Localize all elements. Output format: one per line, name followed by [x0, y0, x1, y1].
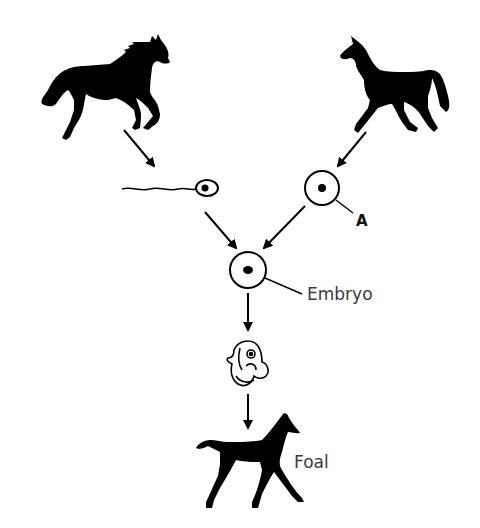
egg-label: A [356, 212, 368, 230]
reproduction-diagram [0, 0, 480, 528]
foal-silhouette-icon [196, 413, 304, 508]
arrow-stallion-to-sperm [124, 130, 154, 166]
embryo-cell-icon [230, 252, 302, 294]
foal-label: Foal [294, 452, 329, 472]
arrow-mare-to-egg [338, 132, 366, 166]
fetus-icon [227, 341, 268, 386]
mare-silhouette-icon [340, 36, 449, 133]
embryo-leader-line [265, 278, 302, 294]
arrow-egg-to-embryo [264, 206, 305, 248]
stallion-silhouette-icon [41, 34, 170, 140]
arrow-sperm-to-embryo [205, 212, 236, 248]
egg-leader-line [336, 200, 353, 213]
egg-cell-icon [305, 171, 353, 213]
embryo-label: Embryo [307, 284, 373, 304]
sperm-cell-icon [122, 180, 218, 196]
